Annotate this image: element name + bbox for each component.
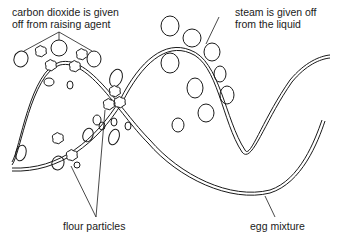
- diagram-canvas: [0, 0, 339, 241]
- flour-particles: [35, 46, 125, 161]
- egg-label: egg mixture: [250, 220, 305, 232]
- flour-leader: [71, 110, 105, 217]
- steam-leader: [206, 17, 219, 44]
- egg-strand-2: [12, 47, 330, 171]
- egg-leader: [265, 196, 275, 217]
- flour-label: flour particles: [63, 220, 125, 232]
- steam-label: steam is given off from the liquid: [235, 6, 317, 30]
- co2-label: carbon dioxide is given off from raising…: [12, 6, 119, 30]
- egg-strand-1: [12, 61, 325, 195]
